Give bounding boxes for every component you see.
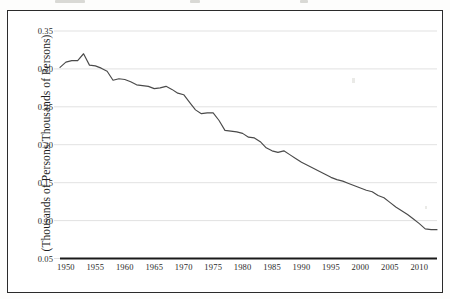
x-tick-label: 2000	[345, 262, 375, 272]
x-tick-label: 1995	[316, 262, 346, 272]
y-tick-label: 0.25	[27, 102, 53, 112]
x-tick-label: 2005	[375, 262, 405, 272]
figure-canvas: (Thousands of Persons/Thousands of Perso…	[0, 0, 450, 299]
y-tick-label: 0.35	[27, 26, 53, 36]
x-tick-label: 1975	[198, 262, 228, 272]
data-series-line	[60, 54, 437, 230]
x-tick-label: 1980	[228, 262, 258, 272]
x-tick-label: 1970	[169, 262, 199, 272]
x-tick-label: 1960	[110, 262, 140, 272]
y-tick-label: 0.05	[27, 254, 53, 264]
scan-speck	[425, 206, 427, 209]
y-tick-label: 0.15	[27, 178, 53, 188]
y-tick-label: 0.20	[27, 140, 53, 150]
tick-marks	[54, 31, 60, 259]
y-tick-label: 0.30	[27, 64, 53, 74]
x-tick-label: 2010	[404, 262, 434, 272]
x-tick-label: 1965	[139, 262, 169, 272]
y-tick-label: 0.10	[27, 216, 53, 226]
gridlines	[60, 31, 437, 221]
x-tick-label: 1990	[287, 262, 317, 272]
x-tick-label: 1955	[80, 262, 110, 272]
line-chart-plot	[0, 0, 450, 299]
x-tick-label: 1985	[257, 262, 287, 272]
x-tick-label: 1950	[51, 262, 81, 272]
scan-speck	[352, 78, 355, 83]
